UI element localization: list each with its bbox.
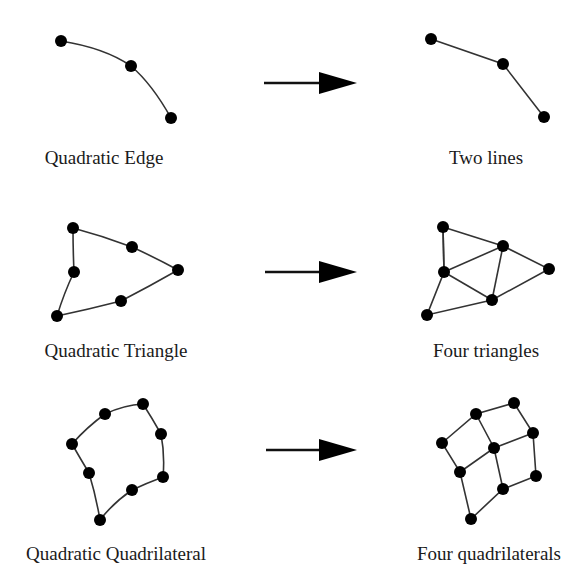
diagram-canvas: [0, 0, 577, 582]
label-quadratic-edge: Quadratic Edge: [45, 147, 164, 169]
arrow-icon-row3: [266, 439, 357, 461]
two-lines-edges: [431, 39, 544, 117]
four-triangles-nodes: [421, 221, 555, 321]
two-lines-nodes: [425, 33, 550, 123]
label-quadratic-quadrilateral: Quadratic Quadrilateral: [26, 543, 206, 565]
label-two-lines: Two lines: [449, 147, 523, 169]
label-four-quadrilaterals: Four quadrilaterals: [417, 543, 561, 565]
quadratic-edge-curve: [61, 41, 171, 118]
arrow-icon-row2: [265, 261, 357, 283]
quadratic-quadrilateral-nodes: [66, 398, 169, 526]
quadratic-quadrilateral-boundary: [72, 404, 164, 520]
label-four-triangles: Four triangles: [433, 340, 539, 362]
arrow-icon-row1: [264, 72, 357, 94]
four-quadrilaterals-nodes: [436, 397, 542, 525]
four-quadrilaterals-edges: [442, 403, 536, 519]
quadratic-edge-nodes: [55, 35, 177, 124]
quadratic-triangle-nodes: [51, 222, 184, 322]
label-quadratic-triangle: Quadratic Triangle: [44, 340, 187, 362]
